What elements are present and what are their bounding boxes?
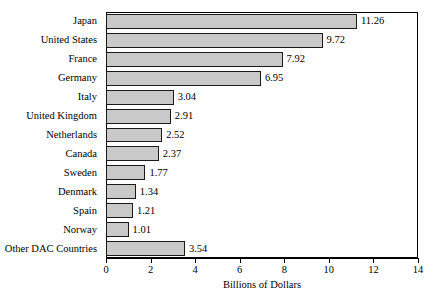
x-axis-tick-label: 4 <box>193 265 198 276</box>
x-axis-tick <box>329 258 330 263</box>
x-axis-tick <box>195 258 196 263</box>
x-axis-tick-label: 2 <box>148 265 153 276</box>
category-label: Other DAC Countries <box>5 243 97 254</box>
bar-row: 6.95 <box>106 69 418 88</box>
x-axis-tick <box>418 258 419 263</box>
bar-row: 9.72 <box>106 31 418 50</box>
bar <box>106 109 171 124</box>
category-label-row: Italy <box>0 88 102 107</box>
category-label: United Kingdom <box>26 111 97 122</box>
bar-row: 2.52 <box>106 126 418 145</box>
bar-row: 1.01 <box>106 220 418 239</box>
bar-value-label: 1.01 <box>129 224 151 235</box>
bar-value-label: 3.04 <box>174 92 196 103</box>
bar-row: 1.21 <box>106 201 418 220</box>
bar-row: 2.37 <box>106 144 418 163</box>
bar-chart: JapanUnited StatesFranceGermanyItalyUnit… <box>0 0 438 300</box>
category-label: France <box>68 54 97 65</box>
bar-row: 1.34 <box>106 182 418 201</box>
category-label-row: France <box>0 50 102 69</box>
category-label-row: Denmark <box>0 182 102 201</box>
category-label: Spain <box>73 205 97 216</box>
category-label-row: Netherlands <box>0 126 102 145</box>
bar-value-label: 11.26 <box>357 16 384 27</box>
category-axis-labels: JapanUnited StatesFranceGermanyItalyUnit… <box>0 12 102 258</box>
bar-value-label: 7.92 <box>283 54 305 65</box>
bar-value-label: 1.21 <box>133 205 155 216</box>
bar <box>106 184 136 199</box>
x-axis-tick <box>284 258 285 263</box>
bar <box>106 52 283 67</box>
category-label-row: Japan <box>0 12 102 31</box>
category-label-row: United States <box>0 31 102 50</box>
bar-value-label: 1.34 <box>136 187 158 198</box>
bars-area: 11.269.727.926.953.042.912.522.371.771.3… <box>106 12 418 258</box>
bar-row: 11.26 <box>106 12 418 31</box>
x-axis-line: 02468101214 <box>106 258 418 259</box>
bar-value-label: 3.54 <box>185 243 207 254</box>
category-label: Denmark <box>58 187 97 198</box>
bar <box>106 241 185 256</box>
bar-value-label: 9.72 <box>323 35 345 46</box>
bar <box>106 33 323 48</box>
category-label: Norway <box>63 224 97 235</box>
category-label: Sweden <box>64 168 97 179</box>
bar-value-label: 6.95 <box>261 73 283 84</box>
x-axis-tick <box>151 258 152 263</box>
bar-row: 1.77 <box>106 163 418 182</box>
bar-row: 7.92 <box>106 50 418 69</box>
bar <box>106 222 129 237</box>
x-axis-tick-label: 14 <box>413 265 424 276</box>
bar-row: 2.91 <box>106 107 418 126</box>
bar-value-label: 2.52 <box>162 130 184 141</box>
bar <box>106 14 357 29</box>
bar <box>106 128 162 143</box>
category-label: Japan <box>73 16 97 27</box>
bar <box>106 71 261 86</box>
bar <box>106 90 174 105</box>
x-axis-tick-label: 6 <box>237 265 242 276</box>
category-label-row: Other DAC Countries <box>0 239 102 258</box>
category-label: Netherlands <box>46 130 97 141</box>
bar-value-label: 1.77 <box>145 168 167 179</box>
x-axis-tick-label: 0 <box>103 265 108 276</box>
category-label: Canada <box>66 149 98 160</box>
bar-row: 3.04 <box>106 88 418 107</box>
x-axis-tick-label: 8 <box>282 265 287 276</box>
bar-value-label: 2.91 <box>171 111 193 122</box>
category-label: Germany <box>58 73 97 84</box>
bar <box>106 165 145 180</box>
category-label-row: Spain <box>0 201 102 220</box>
category-label: Italy <box>78 92 97 103</box>
x-axis-tick-label: 12 <box>368 265 379 276</box>
bar <box>106 203 133 218</box>
bar-value-label: 2.37 <box>159 149 181 160</box>
bar-row: 3.54 <box>106 239 418 258</box>
x-axis-tick <box>106 258 107 263</box>
category-label: United States <box>41 35 97 46</box>
x-axis-tick-label: 10 <box>324 265 335 276</box>
category-label-row: Germany <box>0 69 102 88</box>
category-label-row: Norway <box>0 220 102 239</box>
x-axis-tick <box>240 258 241 263</box>
category-label-row: Canada <box>0 144 102 163</box>
x-axis-title: Billions of Dollars <box>106 280 418 291</box>
category-label-row: Sweden <box>0 163 102 182</box>
category-label-row: United Kingdom <box>0 107 102 126</box>
bar <box>106 146 159 161</box>
x-axis-tick <box>373 258 374 263</box>
